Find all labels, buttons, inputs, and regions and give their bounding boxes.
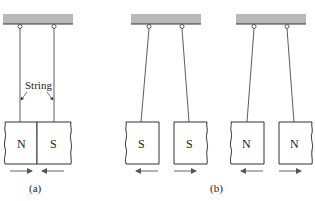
hook-icon xyxy=(18,25,22,29)
panel-b-pair-south: S S xyxy=(125,14,207,171)
hook-icon xyxy=(252,25,256,29)
pole-label: S xyxy=(138,137,145,151)
hook-icon xyxy=(180,25,184,29)
caption-b: (b) xyxy=(210,182,223,195)
pole-label: S xyxy=(50,137,57,151)
caption-a: (a) xyxy=(29,182,42,195)
string xyxy=(287,29,294,123)
pole-label: N xyxy=(242,137,251,151)
panel-b-pair-north: N N xyxy=(230,14,312,171)
ceiling-support xyxy=(3,14,73,24)
hook-icon xyxy=(147,25,151,29)
magnet-diagram: String N S (a) S S N xyxy=(0,0,315,201)
ceiling-support xyxy=(236,14,306,24)
pole-label: S xyxy=(186,137,193,151)
panel-a: String N S (a) xyxy=(3,14,73,195)
string xyxy=(141,29,149,123)
pole-label: N xyxy=(17,137,26,151)
string xyxy=(247,29,254,123)
pole-label: N xyxy=(290,137,299,151)
string xyxy=(182,29,189,123)
hook-icon xyxy=(285,25,289,29)
ceiling-support xyxy=(131,14,201,24)
string-label: String xyxy=(25,79,52,91)
hook-icon xyxy=(52,25,56,29)
